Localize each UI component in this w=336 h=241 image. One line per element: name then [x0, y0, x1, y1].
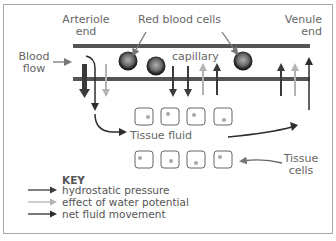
tissue-cell-icon: [161, 108, 179, 125]
tissue-fluid-return-arrow-icon: [228, 127, 292, 137]
tissue-cell-icon: [214, 108, 232, 125]
capillary-top-wall: [73, 44, 310, 48]
tissue-cells-pointer-icon: [243, 160, 282, 163]
rbc-pointer-arrow-icon: [134, 32, 146, 53]
red-blood-cells-label: Red blood cells: [138, 14, 221, 26]
capillary-label: capillary: [172, 51, 219, 63]
tissue-cell-icon: [214, 151, 232, 168]
tissue-cells-label: Tissue cells: [280, 153, 322, 177]
red-blood-cell-icon: [147, 57, 166, 76]
capillary-bottom-wall: [73, 77, 310, 81]
key-item-hydrostatic: hydrostatic pressure: [58, 184, 170, 196]
label-pointers: [53, 32, 282, 163]
venule-end-label: Venule end: [276, 14, 322, 38]
tissue-fluid-label: Tissue fluid: [130, 130, 192, 142]
arteriole-end-arrows: [79, 56, 127, 136]
hydrostatic-key-arrow-icon: [50, 187, 57, 194]
key-item-water-potential: effect of water potential: [58, 196, 189, 208]
net-movement-key-arrow-icon: [50, 211, 57, 218]
net-fluid-into-tissue-arrow-icon: [95, 114, 120, 132]
key-arrows: [28, 187, 57, 218]
red-blood-cell-icon: [234, 52, 253, 71]
tissue-cell-icon: [187, 151, 205, 168]
arteriole-end-label: Arteriole end: [58, 14, 114, 38]
tissue-cell-icon: [135, 151, 153, 168]
red-blood-cell-icon: [119, 52, 138, 71]
tissue-cell-icon: [187, 108, 205, 125]
rbc-pointer-arrow-icon: [222, 32, 236, 52]
blood-flow-label: Blood flow: [14, 51, 54, 75]
key-item-net-movement: net fluid movement: [58, 208, 166, 220]
tissue-cell-icon: [135, 108, 153, 125]
water-potential-key-arrow-icon: [50, 199, 57, 206]
hydrostatic-pressure-arrow-icon: [82, 64, 87, 90]
